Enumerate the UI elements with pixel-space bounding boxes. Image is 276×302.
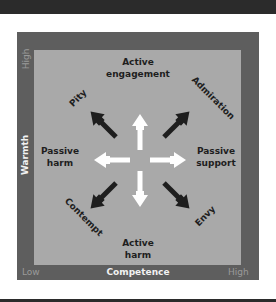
arrow-downleft-icon <box>85 177 122 214</box>
arrow-right-icon <box>150 152 186 168</box>
label-line: harm <box>36 157 84 169</box>
label-passive-harm: Passive harm <box>36 145 84 169</box>
label-line: support <box>192 157 240 169</box>
arrow-up-icon <box>132 114 148 150</box>
top-dark-band <box>0 0 276 14</box>
arrow-left-icon <box>94 152 130 168</box>
label-line: Passive <box>36 145 84 157</box>
label-line: Active <box>106 56 170 68</box>
arrow-down-icon <box>132 171 148 207</box>
label-active-engagement: Active engagement <box>106 56 170 80</box>
label-line: Passive <box>192 145 240 157</box>
arrow-upright-icon <box>158 106 195 143</box>
label-passive-support: Passive support <box>192 145 240 169</box>
x-low-label: Low <box>22 267 40 277</box>
label-line: engagement <box>106 68 170 80</box>
label-active-harm: Active harm <box>106 237 170 261</box>
x-high-label: High <box>228 267 249 277</box>
y-high-label: High <box>21 47 31 71</box>
x-axis-title: Competence <box>100 267 176 277</box>
arrow-downright-icon <box>158 177 195 214</box>
label-line: harm <box>106 249 170 261</box>
label-line: Active <box>106 237 170 249</box>
arrow-upleft-icon <box>85 106 122 143</box>
y-axis-title: Warmth <box>20 130 30 180</box>
